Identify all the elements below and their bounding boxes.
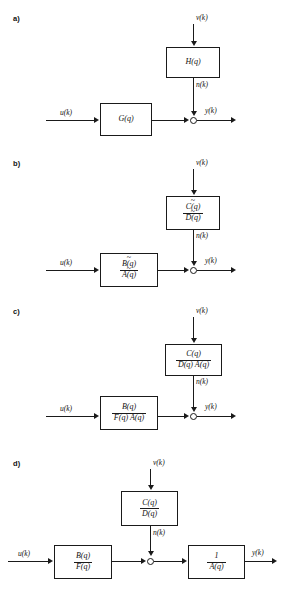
panel-c-signal-v: v(k)	[196, 306, 208, 315]
panel-d-y-arrowhead	[272, 558, 277, 564]
panel-a-v-line	[193, 24, 194, 42]
panel-a-block-process-model-text: G(q)	[118, 115, 133, 123]
panel-a-forward-arrowhead	[184, 117, 189, 123]
panel-a-y-arrowhead	[231, 117, 236, 123]
panel-d-label: d)	[13, 459, 20, 468]
panel-b: b) v(k) C(q) D(q) n(k) u(k) B(q) A(q) y(…	[0, 145, 283, 293]
panel-a-block-noise-filter-text: H(q)	[185, 58, 200, 66]
panel-d-block-process-model-fraction: B(q) F(q)	[74, 552, 92, 572]
panel-a: a) v(k) H(q) n(k) u(k) G(q) y(k)	[0, 0, 283, 145]
panel-a-n-line	[193, 78, 194, 112]
panel-d-summing-junction	[147, 558, 154, 565]
panel-a-label: a)	[13, 14, 20, 23]
panel-a-v-arrowhead	[191, 41, 197, 46]
panel-d-v-line	[150, 469, 151, 486]
panel-c-block-noise-filter: C(q) D(q) A(q)	[165, 344, 222, 376]
panel-b-signal-v: v(k)	[196, 158, 208, 167]
panel-b-block-process-model-fraction: B(q) A(q)	[120, 260, 138, 280]
panel-a-signal-n: n(k)	[196, 80, 208, 89]
panel-b-v-arrowhead	[191, 190, 197, 195]
panel-b-forward-line	[158, 270, 186, 271]
panel-d-v-arrowhead	[148, 485, 154, 490]
panel-a-forward-line	[152, 120, 186, 121]
panel-b-signal-u: u(k)	[60, 258, 72, 267]
panel-c-noise-denominator: D(q) A(q)	[176, 360, 211, 370]
panel-a-u-line	[46, 120, 95, 121]
panel-b-u-arrowhead	[94, 267, 99, 273]
panel-c-y-line	[197, 416, 233, 417]
panel-c-forward-arrowhead	[184, 413, 189, 419]
panel-c-signal-u: u(k)	[60, 404, 72, 413]
panel-b-u-line	[46, 270, 95, 271]
panel-a-n-arrowhead	[191, 111, 197, 116]
panel-b-block-process-model: B(q) A(q)	[100, 253, 158, 287]
panel-b-block-noise-filter-fraction: C(q) D(q)	[183, 203, 202, 223]
panel-c-n-arrowhead	[191, 407, 197, 412]
panel-d-block-output-filter-fraction: 1 A(q)	[207, 552, 225, 572]
panel-d-process-denominator: F(q)	[74, 562, 92, 572]
panel-b-forward-arrowhead	[184, 267, 189, 273]
panel-c-forward-line	[158, 416, 186, 417]
panel-b-signal-n: n(k)	[196, 231, 208, 240]
panel-a-summing-junction	[190, 117, 197, 124]
panel-d-noise-numerator: C(q)	[140, 499, 159, 508]
panel-b-noise-denominator: D(q)	[183, 213, 202, 223]
panel-a-y-line	[197, 120, 233, 121]
panel-d-block-noise-filter: C(q) D(q)	[121, 491, 178, 526]
panel-b-signal-y: y(k)	[205, 256, 217, 265]
panel-c-y-arrowhead	[231, 413, 236, 419]
panel-d-block-noise-filter-fraction: C(q) D(q)	[140, 499, 159, 519]
panel-d-output-denominator: A(q)	[207, 562, 225, 572]
block-diagram-figure: a) v(k) H(q) n(k) u(k) G(q) y(k) b)	[0, 0, 283, 592]
panel-d: d) v(k) C(q) D(q) n(k) u(k) B(q) F(q)	[0, 441, 283, 592]
panel-c-v-arrowhead	[191, 338, 197, 343]
panel-c-block-process-model: B(q) F(q) A(q)	[100, 396, 158, 430]
panel-a-block-noise-filter: H(q)	[166, 47, 220, 78]
panel-c-noise-numerator: C(q)	[184, 350, 203, 359]
panel-d-u-line	[8, 561, 49, 562]
panel-b-process-denominator: A(q)	[120, 270, 138, 280]
panel-c-process-numerator: B(q)	[120, 403, 138, 412]
panel-b-y-arrowhead	[231, 267, 236, 273]
panel-c-u-line	[46, 416, 95, 417]
panel-a-signal-v: v(k)	[196, 13, 208, 22]
panel-a-block-process-model: G(q)	[100, 103, 152, 136]
panel-c-v-line	[193, 317, 194, 339]
panel-b-y-line	[197, 270, 233, 271]
panel-d-forward-line-1	[112, 561, 143, 562]
panel-d-forward-line-2	[154, 561, 183, 562]
panel-c-n-line	[193, 376, 194, 408]
panel-b-block-noise-filter: C(q) D(q)	[166, 196, 220, 230]
panel-c-signal-y: y(k)	[205, 402, 217, 411]
panel-a-u-arrowhead	[94, 117, 99, 123]
panel-c: c) v(k) C(q) D(q) A(q) n(k) u(k) B(q) F(…	[0, 293, 283, 441]
panel-c-process-denominator: F(q) A(q)	[112, 413, 146, 423]
panel-d-signal-n: n(k)	[153, 528, 165, 537]
panel-d-forward-arrowhead-2	[182, 558, 187, 564]
panel-d-output-numerator: 1	[213, 552, 221, 561]
panel-d-process-numerator: B(q)	[74, 552, 92, 561]
panel-c-block-process-model-fraction: B(q) F(q) A(q)	[112, 403, 146, 423]
panel-c-label: c)	[13, 307, 20, 316]
panel-a-signal-y: y(k)	[205, 106, 217, 115]
panel-d-forward-arrowhead-1	[141, 558, 146, 564]
panel-d-n-line	[150, 526, 151, 552]
panel-a-signal-u: u(k)	[60, 108, 72, 117]
panel-d-n-arrowhead	[148, 551, 154, 556]
panel-d-block-process-model: B(q) F(q)	[54, 545, 112, 579]
panel-d-signal-u: u(k)	[18, 549, 30, 558]
panel-d-u-arrowhead	[48, 558, 53, 564]
panel-b-v-line	[193, 169, 194, 191]
panel-d-y-line	[245, 561, 274, 562]
panel-d-signal-v: v(k)	[153, 458, 165, 467]
panel-c-block-noise-filter-fraction: C(q) D(q) A(q)	[176, 350, 211, 370]
panel-c-signal-n: n(k)	[196, 377, 208, 386]
panel-d-block-output-filter: 1 A(q)	[188, 545, 245, 579]
panel-c-summing-junction	[190, 413, 197, 420]
panel-b-n-line	[193, 230, 194, 262]
panel-b-summing-junction	[190, 267, 197, 274]
panel-b-label: b)	[13, 159, 20, 168]
panel-d-noise-denominator: D(q)	[140, 508, 159, 518]
panel-d-signal-y: y(k)	[252, 548, 264, 557]
panel-b-n-arrowhead	[191, 261, 197, 266]
